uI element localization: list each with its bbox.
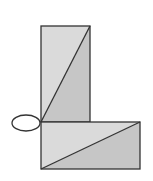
vertical-rectangle (41, 26, 90, 122)
l-shape-diagram (0, 0, 153, 181)
horizontal-rectangle (41, 122, 140, 169)
ellipse-marker (12, 115, 40, 131)
